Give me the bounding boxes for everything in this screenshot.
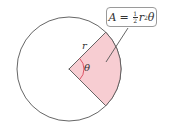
radius-label: r [82,40,87,51]
shaded-sector [69,32,121,106]
formula-theta: θ [148,11,155,24]
angle-label: θ [84,62,90,73]
area-formula-box: A = 1 2 r2θ [106,7,157,27]
center-point [68,68,69,69]
formula-lhs: A [109,11,117,24]
formula-fraction: 1 2 [133,11,138,24]
formula-equals: = [120,11,129,24]
fraction-denominator: 2 [133,18,137,24]
